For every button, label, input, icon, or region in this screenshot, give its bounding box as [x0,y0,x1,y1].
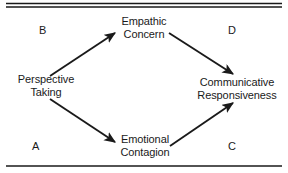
node-communicative-responsiveness-line2: Responsiveness [188,89,286,102]
top-double-rule [6,4,282,8]
node-perspective-taking-line1: Perspective [4,73,88,86]
node-emotional-contagion-line1: Emotional [105,133,185,146]
node-emotional-contagion-line2: Contagion [105,146,185,159]
node-empathic-concern-line2: Concern [104,28,184,41]
corner-letter-top-right: D [228,24,236,36]
figure-container: Empathic Concern Perspective Taking Comm… [0,0,288,173]
corner-letter-bottom-left: A [32,140,39,152]
corner-letter-top-left: B [39,24,46,36]
node-perspective-taking-line2: Taking [4,86,88,99]
node-empathic-concern: Empathic Concern [104,15,184,40]
node-perspective-taking: Perspective Taking [4,73,88,98]
node-emotional-contagion: Emotional Contagion [105,133,185,158]
node-communicative-responsiveness-line1: Communicative [188,76,286,89]
corner-letter-bottom-right: C [228,140,236,152]
node-communicative-responsiveness: Communicative Responsiveness [188,76,286,101]
node-empathic-concern-line1: Empathic [104,15,184,28]
